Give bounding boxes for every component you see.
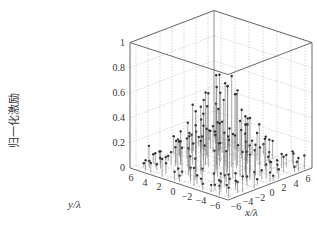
svg-text:−6: −6 xyxy=(231,201,242,212)
svg-text:−2: −2 xyxy=(255,192,266,203)
svg-text:4: 4 xyxy=(143,177,148,188)
svg-text:1: 1 xyxy=(120,37,125,48)
svg-text:2: 2 xyxy=(157,181,162,192)
svg-text:4: 4 xyxy=(294,178,299,189)
svg-text:6: 6 xyxy=(306,173,311,184)
svg-text:−6: −6 xyxy=(210,200,221,211)
svg-text:0: 0 xyxy=(120,162,125,173)
svg-text:0: 0 xyxy=(270,187,275,198)
svg-text:−2: −2 xyxy=(182,191,193,202)
svg-text:0.2: 0.2 xyxy=(113,137,126,148)
svg-text:−4: −4 xyxy=(196,195,207,206)
chart-canvas: 00.20.40.60.81−6−4−20246−6−4−20246 归一化激励… xyxy=(0,0,317,235)
svg-text:2: 2 xyxy=(282,182,287,193)
svg-text:0: 0 xyxy=(171,186,176,197)
y-axis-label: y/λ xyxy=(67,198,81,210)
svg-text:6: 6 xyxy=(129,172,134,183)
svg-text:0.8: 0.8 xyxy=(113,62,126,73)
svg-text:0.4: 0.4 xyxy=(113,112,126,123)
svg-text:0.6: 0.6 xyxy=(113,87,126,98)
z-axis-label: 归一化激励 xyxy=(7,93,20,148)
grid-lines xyxy=(130,11,312,198)
x-axis-label: x/λ xyxy=(244,206,258,218)
3d-stem-chart: 00.20.40.60.81−6−4−20246−6−4−20246 归一化激励… xyxy=(0,0,317,235)
